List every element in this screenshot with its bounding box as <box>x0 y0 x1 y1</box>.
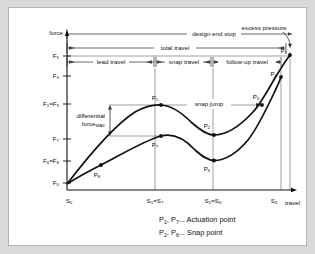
x-tick-S1-S7: S1=S7 <box>147 197 164 205</box>
y-tick-F7: F7 <box>53 135 60 143</box>
band-label-lead-travel: lead travel <box>97 58 126 65</box>
point-label-P3: P3 <box>253 93 260 101</box>
diagram-stage: design end stop total travel <box>9 8 306 245</box>
differential-force-line2: forceMAX <box>82 120 105 128</box>
annotation-differential-force: differential forceMAX <box>77 105 112 136</box>
x-tick-labels: S0 S1=S7 S2=S6 S4 <box>66 197 278 205</box>
y-tick-F1-F3: F1=F3 <box>43 100 60 108</box>
y-tick-F4: F4 <box>53 72 60 80</box>
annotation-snap-jump: snap jump <box>187 99 262 109</box>
band-follow-up-travel: follow-up travel <box>213 56 281 67</box>
legend-row-snap-point: P2, P6... Snap point <box>159 228 222 238</box>
y-tick-F5: F5 <box>53 52 60 60</box>
x-axis-label: travel <box>285 199 300 206</box>
force-travel-diagram: design end stop total travel <box>9 8 306 245</box>
y-tick-F6-F8: F6=F8 <box>43 157 60 165</box>
legend-row-actuation-point: P1, P7... Actuation point <box>159 215 235 225</box>
point-label-P7: P7 <box>152 141 159 149</box>
point-marker-P3 <box>260 103 264 107</box>
x-tick-S4: S4 <box>271 197 278 205</box>
band-lead-travel: lead travel <box>67 56 154 67</box>
point-marker-P8 <box>99 163 103 167</box>
band-label-snap-travel: snap travel <box>169 58 199 65</box>
point-marker-P4 <box>279 75 283 79</box>
y-tick-F0: F0 <box>53 179 60 187</box>
band-label-follow-up-travel: follow-up travel <box>226 58 268 65</box>
x-tick-S2-S6: S2=S6 <box>205 197 222 205</box>
band-label-design-end-stop: design end stop <box>192 30 236 37</box>
diagram-panel: design end stop total travel <box>8 7 307 246</box>
band-snap-travel: snap travel <box>156 56 211 67</box>
curve-lower <box>67 77 281 184</box>
point-marker-P7 <box>159 134 163 138</box>
point-label-P1: P1 <box>152 94 159 102</box>
point-label-P4: P4 <box>270 70 277 78</box>
differential-force-line1: differential <box>77 112 105 119</box>
excess-pressure-label: excess pressure <box>241 24 287 31</box>
y-axis-label: force <box>49 29 63 36</box>
point-marker-P5 <box>288 53 292 57</box>
band-label-total-travel: total travel <box>161 44 190 51</box>
legend: P1, P7... Actuation point P2, P6... Snap… <box>159 215 235 238</box>
annotation-excess-pressure: excess pressure <box>241 24 292 48</box>
point-marker-P2 <box>212 133 216 137</box>
point-label-P2: P2 <box>204 122 211 130</box>
point-label-P8: P8 <box>94 171 101 179</box>
x-tick-S0: S0 <box>66 197 73 205</box>
band-total-travel: total travel <box>67 42 286 53</box>
point-marker-P6 <box>212 159 216 163</box>
snap-jump-label: snap jump <box>195 100 224 107</box>
point-marker-P1 <box>159 103 163 107</box>
point-label-P6: P6 <box>204 165 211 173</box>
point-label-P5: P5 <box>280 47 287 55</box>
